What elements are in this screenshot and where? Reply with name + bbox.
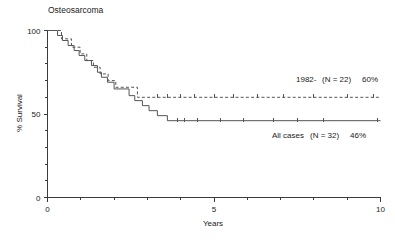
survival-plot-svg: Osteosarcoma 100500 0510 % Survival Year…: [0, 0, 395, 240]
survival-chart-figure: Osteosarcoma 100500 0510 % Survival Year…: [0, 0, 395, 240]
y-axis-ticks: [44, 31, 48, 198]
annotation-1982-pct: 60%: [362, 75, 378, 84]
y-ticklabel: 50: [32, 110, 41, 119]
y-ticklabel: 0: [36, 194, 41, 203]
x-ticklabel: 10: [376, 205, 385, 214]
annotation-1982-n: (N = 22): [322, 75, 351, 84]
chart-title: Osteosarcoma: [48, 5, 104, 15]
x-ticklabel: 5: [212, 205, 217, 214]
series-line-1982: [48, 31, 381, 98]
annotation-all-cases: All cases (N = 32) 46%: [272, 131, 366, 140]
annotation-1982: 1982- (N = 22) 60%: [296, 75, 378, 84]
x-axis-ticklabels: 0510: [45, 205, 385, 214]
annotation-all-cases-pct: 46%: [350, 131, 366, 140]
annotation-all-cases-n: (N = 32): [310, 131, 339, 140]
x-axis-title: Years: [203, 219, 223, 228]
y-ticklabel: 100: [27, 27, 41, 36]
x-ticklabel: 0: [45, 205, 50, 214]
x-axis-ticks: [48, 198, 381, 202]
annotation-1982-label: 1982-: [296, 75, 317, 84]
y-axis-ticklabels: 100500: [27, 27, 41, 203]
annotation-all-cases-label: All cases: [272, 131, 304, 140]
y-axis-title: % Survival: [15, 94, 24, 132]
